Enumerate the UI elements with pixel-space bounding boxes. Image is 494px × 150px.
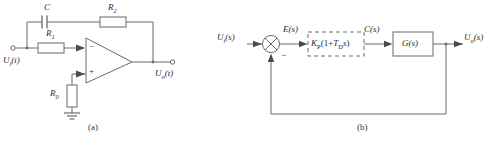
plant-transfer-function-label: G(s) [402,38,418,48]
resistor-r0-body [67,85,77,107]
figure-vector-graphics [0,0,494,150]
arrowhead-inverting-input [76,45,85,52]
capacitor-label: C [44,2,50,12]
error-signal-label: E(s) [283,24,298,34]
figure-container: C R2 R1 R0 Ui(t) Uo(t) − + (a) Ui(s) E(s… [0,0,494,150]
output-terminal-a [170,60,174,64]
junction-dot-input [26,47,29,50]
panel-b-block-wires [247,32,463,114]
resistor-r2-label: R2 [108,2,117,14]
resistor-r2-body [100,17,126,27]
output-signal-label-b: Uo(s) [464,32,483,44]
arrowhead-feedback-sum [268,54,274,63]
resistor-r1-body [38,43,64,53]
inverting-input-sign: − [89,41,94,51]
noninverting-input-sign: + [89,66,94,76]
arrowhead-error-controller [299,41,308,47]
panel-a-caption: (a) [88,122,98,132]
panel-b-caption: (b) [357,122,368,132]
resistor-r1-label: R1 [46,28,55,40]
controller-transfer-function-label: KP(1+TDs) [311,38,349,50]
control-signal-label: C(s) [364,24,380,34]
input-voltage-label-a: Ui(t) [3,55,20,67]
arrowhead-noninverting-input [76,71,85,78]
arrowhead-plant-output [454,41,463,47]
arrowhead-control-plant [384,41,393,47]
arrowhead-input-sum [253,41,262,47]
input-signal-label-b: Ui(s) [217,32,235,44]
input-terminal-a [11,46,15,50]
panel-a-arrowheads [76,45,85,78]
resistor-r0-label: R0 [50,88,59,100]
feedback-sign-label: − [281,50,286,60]
output-voltage-label-a: Uo(t) [155,68,173,80]
